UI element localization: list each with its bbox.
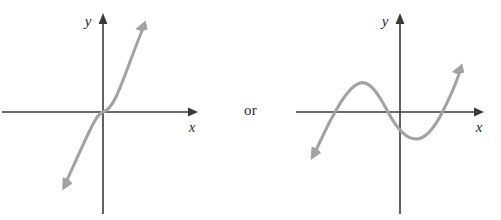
y-axis-right	[396, 13, 405, 214]
connector-or: or	[215, 0, 286, 220]
polynomial-end-behavior-figure: y x or y x	[0, 0, 501, 220]
y-axis-label-right: y	[380, 13, 389, 29]
x-axis-label-left: x	[188, 119, 196, 135]
x-axis-label-right: x	[475, 119, 483, 135]
curve-wavy-cubic	[311, 64, 465, 161]
y-axis-label-left: y	[83, 13, 92, 29]
connector-label: or	[244, 102, 257, 119]
graph-panel-left: y x	[0, 0, 215, 220]
curve-increasing-cubic	[62, 21, 147, 191]
graph-panel-right: y x	[286, 0, 501, 220]
